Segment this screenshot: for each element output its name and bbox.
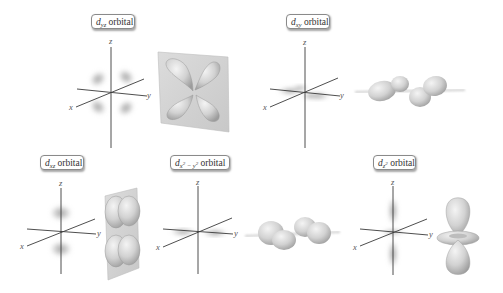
axis-label-dyz-x: x <box>69 103 73 112</box>
axes-dyz <box>76 47 147 148</box>
panel-dxz <box>27 188 140 280</box>
orbital-3d-dx2-y2 <box>245 217 340 250</box>
orbital-3d-dz2 <box>437 198 479 275</box>
axis-label-dx2-y2-z: z <box>196 178 199 187</box>
axis-label-dxy-x: x <box>263 103 267 112</box>
axis-label-dxz-x: x <box>20 242 24 251</box>
axis-label-dxy-z: z <box>303 38 306 47</box>
label-suffix: orbital <box>388 158 415 168</box>
axis-label-dz2-x: x <box>353 243 357 252</box>
axes-dxz <box>27 188 96 274</box>
axis-label-dx2-y2-y: y <box>234 229 238 238</box>
panel-dz2 <box>360 186 479 275</box>
label-minus: − <box>185 162 193 169</box>
axis-label-dx2-y2-x: x <box>156 243 160 252</box>
panel-dyz <box>76 47 229 148</box>
electron-cloud-dx2-y2 <box>170 228 228 237</box>
label-suffix: orbital <box>55 158 82 168</box>
orbital-3d-dxz <box>105 188 140 280</box>
orbital-3d-dyz <box>158 52 229 132</box>
axis-label-dxy-y: y <box>340 91 344 100</box>
label-subscript: x2 − y2 <box>180 162 198 169</box>
label-suffix: orbital <box>302 17 329 27</box>
label-dz2-orbital: dz2 orbital <box>373 155 416 170</box>
axis-label-dz2-z: z <box>391 178 394 187</box>
orbital-diagram <box>0 0 503 293</box>
axes-dxy <box>270 47 340 148</box>
label-dyz-orbital: dyz orbital <box>91 14 135 29</box>
label-dxy-orbital: dxy orbital <box>286 14 330 29</box>
panel-dx2-y2 <box>163 186 340 274</box>
axis-label-dyz-z: z <box>109 37 112 46</box>
label-suffix: orbital <box>198 158 225 168</box>
axis-label-dxz-y: y <box>97 229 101 238</box>
axis-label-dxz-z: z <box>59 179 62 188</box>
label-dx2-y2-orbital: dx2 − y2 orbital <box>170 155 230 170</box>
orbital-3d-dxy <box>355 74 465 107</box>
label-dxz-orbital: dxz orbital <box>40 155 84 170</box>
label-suffix: orbital <box>106 17 133 27</box>
axis-label-dz2-y: y <box>429 230 433 239</box>
panel-dxy <box>270 47 465 148</box>
axis-label-dyz-y: y <box>147 91 151 100</box>
